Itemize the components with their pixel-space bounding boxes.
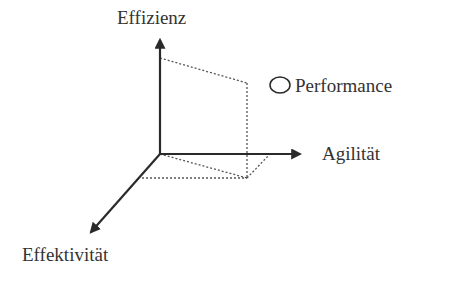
- effektivitaet-axis: [91, 154, 160, 232]
- projection-lines: [142, 58, 270, 178]
- performance-marker-icon: [270, 77, 290, 93]
- diagram-canvas: [0, 0, 455, 282]
- effizienz-label: Effizienz: [117, 8, 186, 27]
- performance-label: Performance: [295, 76, 392, 95]
- agilitaet-label: Agilität: [322, 144, 380, 163]
- effektivitaet-label: Effektivität: [22, 245, 108, 264]
